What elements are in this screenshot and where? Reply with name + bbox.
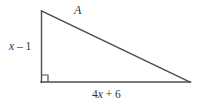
horizontal-leg-label: 4x + 6 [92, 89, 121, 101]
hypotenuse-label: A [74, 4, 81, 16]
right-angle-marker-icon [42, 75, 48, 82]
horizontal-leg-operator: + [103, 88, 115, 100]
vertical-leg-operator: – [14, 40, 26, 52]
hypotenuse-line [42, 11, 191, 82]
vertical-leg-constant: 1 [26, 40, 32, 52]
vertical-leg-label: x – 1 [9, 41, 31, 53]
geometry-figure: A x – 1 4x + 6 [0, 0, 198, 110]
horizontal-leg-constant: 6 [115, 88, 121, 100]
